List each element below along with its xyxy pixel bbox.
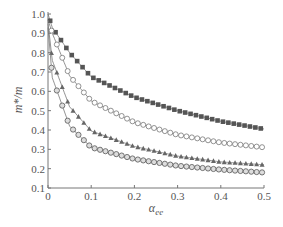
series-square-filled <box>48 14 264 131</box>
series-circle-open <box>48 20 265 150</box>
marker-square <box>204 116 209 121</box>
marker-double-circle <box>216 167 221 172</box>
marker-double-circle <box>200 165 205 170</box>
marker-circle <box>260 145 265 150</box>
marker-square <box>113 86 118 91</box>
marker-double-circle <box>238 168 243 173</box>
marker-circle <box>168 130 173 135</box>
marker-double-circle <box>135 157 140 162</box>
marker-double-circle <box>108 150 113 155</box>
marker-double-circle <box>205 166 210 171</box>
marker-square <box>140 97 145 102</box>
marker-double-circle <box>254 169 259 174</box>
marker-square <box>129 93 134 98</box>
y-tick-label: 0.5 <box>31 105 45 117</box>
marker-circle <box>108 108 113 113</box>
x-tick-label: 0.1 <box>84 190 98 202</box>
marker-double-circle <box>222 167 227 172</box>
marker-double-circle <box>146 159 151 164</box>
marker-circle <box>152 125 157 130</box>
marker-circle <box>157 127 162 132</box>
marker-double-circle <box>184 164 189 169</box>
marker-double-circle <box>141 158 146 163</box>
marker-circle <box>195 136 200 141</box>
marker-double-circle <box>168 162 173 167</box>
marker-circle <box>184 134 189 139</box>
marker-triangle <box>60 84 65 89</box>
series-triangle-filled <box>48 24 265 167</box>
marker-square <box>221 119 226 124</box>
x-axis-label: αee <box>149 201 163 217</box>
marker-square <box>215 118 220 123</box>
marker-circle <box>173 132 178 137</box>
marker-circle <box>92 100 97 105</box>
y-tick-label: 0.2 <box>31 163 45 175</box>
marker-double-circle <box>232 168 237 173</box>
marker-circle <box>200 137 205 142</box>
marker-circle <box>179 133 184 138</box>
marker-double-circle <box>76 132 81 137</box>
marker-square <box>258 126 263 131</box>
marker-double-circle <box>65 118 70 123</box>
marker-circle <box>60 55 65 60</box>
marker-circle <box>141 122 146 127</box>
marker-double-circle <box>195 165 200 170</box>
marker-circle <box>81 90 86 95</box>
marker-double-circle <box>114 152 119 157</box>
marker-square <box>64 46 69 51</box>
marker-circle <box>227 141 232 146</box>
marker-square <box>102 81 107 86</box>
marker-square <box>75 59 80 64</box>
marker-square <box>253 125 258 130</box>
marker-circle <box>189 135 194 140</box>
x-tick-label: 0.3 <box>171 190 185 202</box>
marker-circle <box>87 96 92 101</box>
marker-double-circle <box>70 127 75 132</box>
marker-square <box>177 109 182 114</box>
marker-circle <box>71 77 76 82</box>
marker-square <box>96 78 101 83</box>
marker-circle <box>125 116 130 121</box>
marker-circle <box>211 139 216 144</box>
marker-square <box>226 120 231 125</box>
marker-triangle <box>54 70 59 75</box>
marker-circle <box>254 144 259 149</box>
marker-circle <box>54 42 59 47</box>
marker-double-circle <box>157 160 162 165</box>
marker-square <box>237 122 242 127</box>
x-tick-label: 0.2 <box>128 190 142 202</box>
marker-circle <box>216 140 221 145</box>
y-axis-label: m*/m <box>11 86 25 113</box>
marker-square <box>199 114 204 119</box>
marker-double-circle <box>189 164 194 169</box>
marker-circle <box>222 140 227 145</box>
marker-circle <box>103 106 108 111</box>
marker-square <box>231 121 236 126</box>
marker-square <box>86 71 91 76</box>
x-tick-label: 0.5 <box>257 190 271 202</box>
marker-square <box>183 110 188 115</box>
y-tick-label: 1.0 <box>31 8 45 20</box>
marker-circle <box>49 28 54 33</box>
marker-circle <box>65 69 70 74</box>
marker-square <box>150 101 155 106</box>
marker-square <box>107 83 112 88</box>
marker-circle <box>238 142 243 147</box>
marker-circle <box>114 111 119 116</box>
marker-double-circle <box>178 163 183 168</box>
marker-double-circle <box>249 169 254 174</box>
marker-double-circle <box>60 103 65 108</box>
marker-circle <box>119 113 124 118</box>
marker-square <box>91 76 96 81</box>
marker-circle <box>162 129 167 134</box>
marker-square <box>167 106 172 111</box>
marker-double-circle <box>87 143 92 148</box>
marker-square <box>188 112 193 117</box>
series-line <box>48 28 264 173</box>
marker-square <box>248 124 253 129</box>
y-tick-label: 0.8 <box>31 47 45 59</box>
y-tick-label: 0.1 <box>31 182 45 194</box>
marker-triangle <box>65 99 70 104</box>
y-tick-label: 0.4 <box>31 124 45 136</box>
marker-circle <box>233 142 238 147</box>
